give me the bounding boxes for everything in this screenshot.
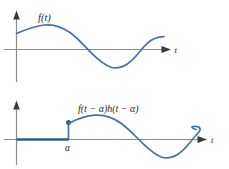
panel-bottom: f(t − α)h(t − α) α t	[4, 101, 214, 166]
top-function-label: f(t)	[38, 12, 51, 24]
bottom-function-label: f(t − α)h(t − α)	[78, 103, 139, 115]
figure-container: f(t) t f(t − α)h(t − α) α t	[0, 0, 229, 169]
bottom-curve-shifted	[69, 115, 201, 158]
bottom-axis-label-t: t	[211, 135, 214, 145]
bottom-horizontal-axis-arrowhead	[198, 136, 208, 143]
two-panel-plot: f(t) t f(t − α)h(t − α) α t	[0, 0, 229, 169]
bottom-vertical-axis-arrowhead	[13, 101, 20, 110]
alpha-tick-label: α	[65, 143, 71, 153]
panel-top: f(t) t	[4, 11, 178, 83]
top-curve-ft	[17, 25, 165, 68]
top-axis-label-t: t	[175, 45, 178, 55]
top-horizontal-axis-arrowhead	[162, 46, 172, 53]
top-vertical-axis-arrowhead	[13, 11, 20, 20]
